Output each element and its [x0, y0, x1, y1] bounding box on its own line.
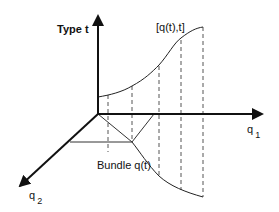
q1-base: q — [247, 123, 253, 135]
upper-curve-label: [q(t),t] — [156, 22, 185, 33]
bundle-diagram — [0, 0, 279, 212]
q2-axis-label: q2 — [29, 190, 42, 201]
q1-subscript: 1 — [255, 130, 260, 140]
q2-subscript: 2 — [37, 196, 42, 206]
rising-guide-line — [132, 114, 154, 142]
upper-curve — [98, 27, 203, 97]
type-axis-label: Type t — [57, 24, 89, 35]
q1-axis-label: q1 — [247, 124, 260, 135]
dashed-projection-lines — [108, 27, 203, 197]
bundle-curve-label: Bundle q(t) — [97, 160, 151, 171]
q2-base: q — [29, 189, 35, 201]
diagonal-guide-line — [98, 114, 132, 142]
q2-axis — [20, 114, 98, 186]
